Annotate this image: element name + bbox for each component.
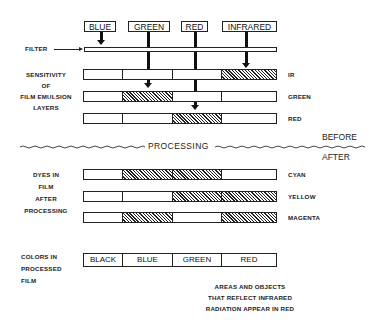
filter-box-infrared: INFRARED [222,21,277,32]
dye-magenta-label: MAGENTA [288,213,320,223]
filter-box-green: GREEN [128,21,170,32]
layer-green-label: GREEN [288,92,311,102]
layer-green-bar [83,91,277,102]
green-arrowhead-icon [144,83,152,88]
color-green-cell: GREEN [173,254,222,266]
dyes-label-line4: PROCESSING [10,206,82,216]
blue-ray [100,32,103,40]
layer-ir-label: IR [288,70,295,80]
processing-wavy-line-right [215,143,365,151]
color-black-cell: BLACK [84,254,123,266]
processing-wavy-line-left [20,143,145,151]
color-red-cell: RED [222,254,276,266]
layer-red-bar [83,113,277,124]
filter-label: FILTER [25,44,47,54]
infrared-arrowhead-icon [242,63,250,68]
processed-colors-bar: BLACK BLUE GREEN RED [83,253,277,267]
filter-pointer-line [54,49,80,50]
filter-box-blue: BLUE [84,21,116,32]
red-arrowhead-icon [191,105,199,110]
dye-cyan-bar [83,169,277,180]
filter-pointer-arrowhead-icon [79,47,83,51]
note-line1: AREAS AND OBJECTS [180,282,320,292]
dye-cyan-label: CYAN [288,170,306,180]
colors-label-line1: COLORS IN [21,252,57,262]
dye-magenta-bar [83,212,277,223]
blue-arrowhead-icon [97,40,105,45]
layer-red-label: RED [288,114,302,124]
colors-label-line3: FILM [21,276,36,286]
dyes-label-line1: DYES IN [10,170,82,180]
sensitivity-label-line4: LAYERS [10,103,82,113]
dye-yellow-bar [83,191,277,202]
dyes-label-line2: FILM [10,182,82,192]
after-label: AFTER [322,152,350,162]
filter-bar [84,47,277,52]
layer-ir-bar [83,69,277,80]
colors-label-line2: PROCESSED [21,264,62,274]
processing-label: PROCESSING [148,141,209,151]
note-line2: THAT REFLECT INFRARED [180,293,320,303]
color-blue-cell: BLUE [123,254,173,266]
note-line3: RADIATION APPEAR IN RED [180,304,320,314]
dyes-label-line3: AFTER [10,194,82,204]
sensitivity-label-line3: FILM EMULSION [10,92,82,102]
sensitivity-label-line1: SENSITIVITY [10,70,82,80]
sensitivity-label-line2: OF [10,81,82,91]
filter-box-red: RED [181,21,208,32]
dye-yellow-label: YELLOW [288,192,316,202]
before-label: BEFORE [322,132,357,142]
